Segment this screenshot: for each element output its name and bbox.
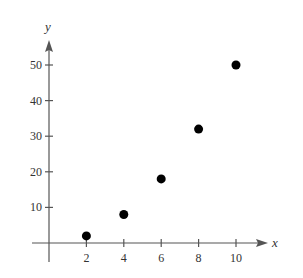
data-point xyxy=(119,210,128,219)
data-point xyxy=(157,174,166,183)
axes: x y xyxy=(32,19,278,262)
y-tick-label: 10 xyxy=(30,200,42,214)
scatter-chart: x y 246810 1020304050 xyxy=(0,0,303,278)
data-points xyxy=(82,61,241,241)
data-point xyxy=(232,61,241,70)
data-point xyxy=(82,231,91,240)
y-axis-label: y xyxy=(43,19,51,34)
y-tick-label: 40 xyxy=(30,94,42,108)
x-tick-label: 6 xyxy=(158,251,164,265)
x-axis-label: x xyxy=(271,235,278,250)
y-tick-label: 20 xyxy=(30,165,42,179)
x-tick-label: 10 xyxy=(230,251,242,265)
x-tick-label: 2 xyxy=(83,251,89,265)
x-tick-label: 4 xyxy=(121,251,127,265)
y-tick-label: 30 xyxy=(30,129,42,143)
data-point xyxy=(194,125,203,134)
y-tick-label: 50 xyxy=(30,58,42,72)
x-tick-label: 8 xyxy=(196,251,202,265)
